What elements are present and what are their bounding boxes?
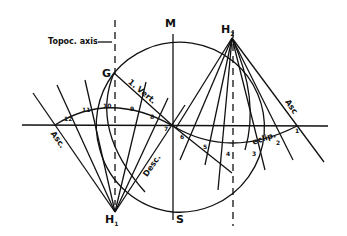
house-1: 1 (295, 128, 299, 134)
label-M: M (165, 18, 176, 29)
house-2: 2 (276, 140, 280, 146)
label-H2: H2 (221, 24, 234, 37)
label-H1: H1 (105, 214, 118, 227)
house-5: 5 (203, 144, 207, 150)
house-6: 6 (180, 134, 184, 140)
house-3: 3 (252, 151, 256, 157)
diagram-lines (0, 0, 347, 236)
topoc-axis-label: Topoc. axis (48, 38, 98, 46)
label-S: S (176, 214, 184, 225)
house-9: 9 (130, 106, 134, 112)
label-G: G (102, 68, 111, 79)
house-division-diagram: Topoc. axis M S G H1 H2 Asc. Asc Desc. e… (0, 0, 347, 236)
house-10: 10 (103, 103, 111, 109)
house-8: 8 (150, 114, 154, 120)
house-11: 11 (82, 107, 90, 113)
house-12: 12 (64, 116, 72, 122)
house-4: 4 (226, 151, 230, 157)
horizon-line (22, 125, 328, 126)
house-7: 7 (164, 126, 168, 132)
